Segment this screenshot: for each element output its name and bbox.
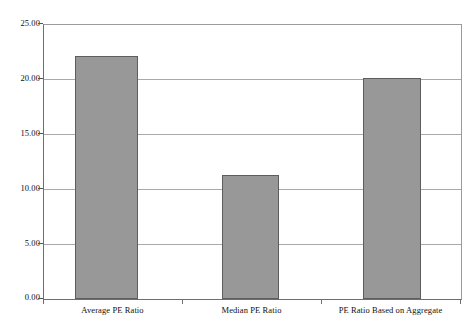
bar-pe-ratio-based-on-aggregate[interactable]	[363, 78, 421, 299]
y-axis: 25.00 20.00 15.00 10.00 5.00 0.00	[0, 0, 40, 325]
x-axis-category-label-3: PE Ratio Based on Aggregate	[321, 305, 460, 316]
y-axis-tick-label: 10.00	[4, 184, 40, 193]
bar-average-pe-ratio[interactable]	[75, 56, 138, 299]
x-axis-tick-mark	[182, 299, 183, 304]
x-axis-category-label-2: Median PE Ratio	[182, 305, 321, 316]
y-axis-tick-label: 0.00	[4, 293, 40, 302]
y-axis-tick-label: 25.00	[4, 19, 40, 28]
x-axis-tick-mark	[43, 299, 44, 304]
x-axis-tick-mark	[460, 299, 461, 304]
plot-area	[43, 24, 462, 300]
bar-chart: 25.00 20.00 15.00 10.00 5.00 0.00 Averag…	[0, 0, 476, 325]
y-axis-tick-label: 5.00	[4, 239, 40, 248]
y-axis-tick-label: 20.00	[4, 74, 40, 83]
y-axis-tick-label: 15.00	[4, 129, 40, 138]
x-axis-labels: Average PE Ratio Median PE Ratio PE Rati…	[43, 305, 462, 323]
x-axis-tick-mark	[321, 299, 322, 304]
bar-median-pe-ratio[interactable]	[222, 175, 279, 299]
x-axis-category-label-1: Average PE Ratio	[43, 305, 182, 316]
